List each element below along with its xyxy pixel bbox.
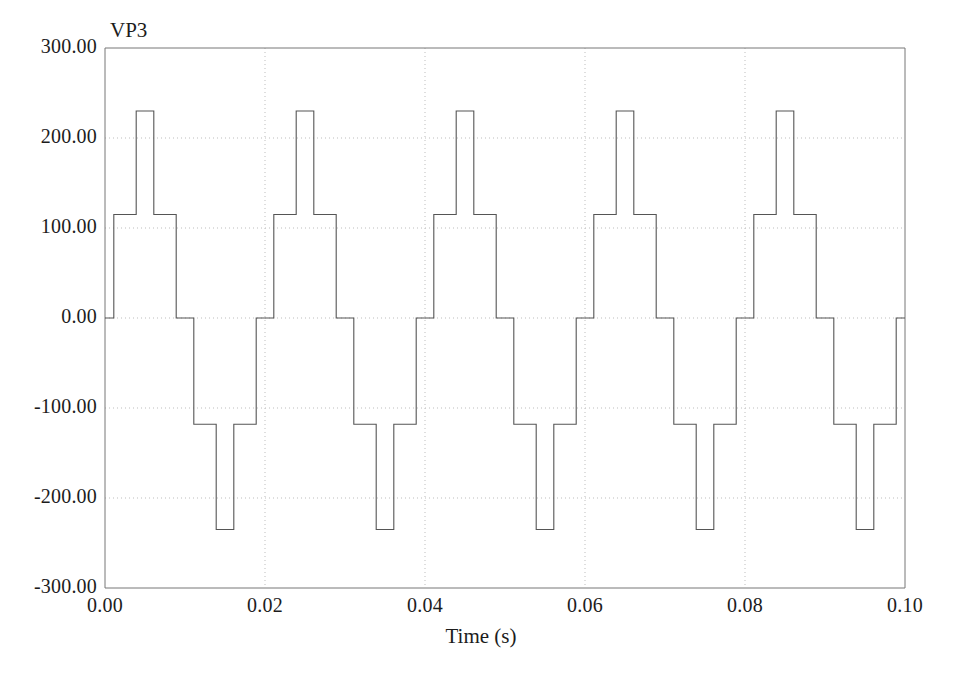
x-axis-title: Time (s) [0, 624, 962, 649]
plot-canvas [0, 0, 962, 675]
x-tick-label: 0.08 [705, 594, 785, 617]
x-tick-label: 0.02 [225, 594, 305, 617]
y-tick-label: 100.00 [41, 215, 97, 238]
chart-figure: VP3 300.00200.00100.000.00-100.00-200.00… [0, 0, 962, 675]
y-tick-label: 0.00 [61, 305, 97, 328]
x-tick-label: 0.06 [545, 594, 625, 617]
x-tick-label: 0.10 [865, 594, 945, 617]
y-tick-label: -100.00 [34, 395, 97, 418]
x-tick-label: 0.00 [65, 594, 145, 617]
y-tick-label: 300.00 [41, 35, 97, 58]
y-tick-label: 200.00 [41, 125, 97, 148]
x-tick-label: 0.04 [385, 594, 465, 617]
y-tick-label: -200.00 [34, 485, 97, 508]
waveform-line [105, 111, 905, 530]
